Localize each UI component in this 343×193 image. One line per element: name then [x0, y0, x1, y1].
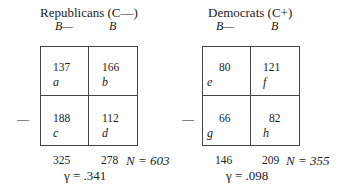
col-total-b: 278: [101, 154, 118, 166]
cell-b-value: 166: [102, 61, 119, 73]
divider: [202, 95, 299, 96]
col-header-b-minus: B—: [216, 19, 234, 34]
cell-d-label: d: [102, 126, 108, 141]
cell-h-label: h: [263, 126, 269, 141]
col-header-b-minus: B—: [55, 19, 73, 34]
n-total: N = 355: [286, 153, 329, 169]
divider: [40, 95, 137, 96]
cell-f-value: 121: [263, 61, 280, 73]
col-total-b: 209: [262, 154, 279, 166]
cell-c-value: 188: [53, 112, 70, 124]
cell-f-label: f: [263, 75, 266, 90]
cell-d-value: 112: [102, 112, 119, 124]
contingency-box: [202, 46, 300, 146]
col-header-b: B: [109, 19, 116, 34]
cell-b-label: b: [102, 75, 108, 90]
cell-e-label: e: [207, 75, 212, 90]
row-label-minus: —: [17, 112, 29, 127]
cell-a-value: 137: [53, 61, 70, 73]
cell-g-label: g: [207, 126, 213, 141]
gamma: γ = .098: [226, 168, 268, 184]
cell-a-label: a: [53, 75, 59, 90]
col-total-b-minus: 146: [215, 154, 232, 166]
cell-g-value: 66: [219, 112, 231, 124]
cell-c-label: c: [53, 126, 58, 141]
gamma: γ = .341: [64, 168, 106, 184]
col-total-b-minus: 325: [53, 154, 70, 166]
cell-e-value: 80: [219, 61, 231, 73]
n-total: N = 603: [126, 153, 169, 169]
col-header-b: B: [271, 19, 278, 34]
cell-h-value: 82: [269, 112, 281, 124]
row-label-minus: —: [182, 112, 194, 127]
